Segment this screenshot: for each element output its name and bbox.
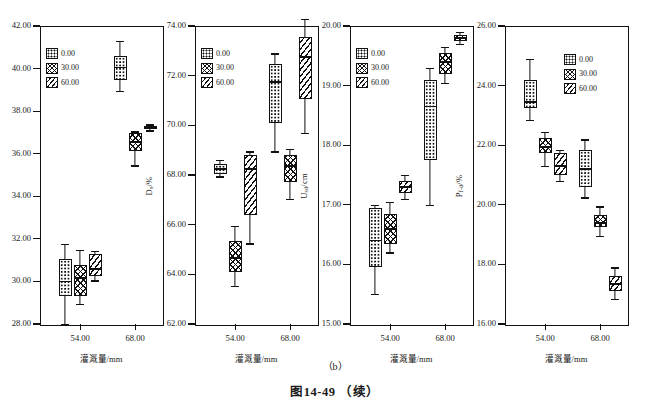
lower-cap xyxy=(116,91,124,92)
y-tick-mark xyxy=(188,323,195,324)
upper-cap xyxy=(231,226,239,227)
x-tick-mark xyxy=(445,324,446,330)
figure-caption: 图14-49 （续） xyxy=(0,381,670,400)
median-line xyxy=(454,37,467,39)
lower-cap xyxy=(541,166,549,167)
y-tick-label: 18.00 xyxy=(459,259,496,268)
y-tick-mark xyxy=(33,68,40,69)
lower-whisker xyxy=(250,215,251,244)
median-line xyxy=(114,67,127,69)
median-line xyxy=(369,240,382,242)
median-line xyxy=(59,281,72,283)
legend-swatch-cross-hatch-icon xyxy=(201,63,213,74)
lower-cap xyxy=(131,165,139,166)
y-tick-label: 68.00 xyxy=(149,170,186,179)
lower-cap xyxy=(301,133,309,134)
y-tick-label: 62.00 xyxy=(149,319,186,328)
y-tick-mark xyxy=(343,323,350,324)
y-tick-mark xyxy=(498,85,505,86)
y-tick-label: 32.00 xyxy=(0,234,31,243)
lower-cap xyxy=(216,176,224,177)
x-tick-mark xyxy=(545,324,546,330)
y-tick-label: 17.00 xyxy=(304,200,341,209)
y-tick-label: 24.00 xyxy=(459,81,496,90)
upper-cap xyxy=(456,32,464,33)
median-line xyxy=(269,81,282,83)
lower-whisker xyxy=(600,227,601,236)
boxplot-4-68.00-30.00 xyxy=(594,8,607,324)
legend-swatch-diagonal-icon xyxy=(201,77,213,88)
y-tick-mark xyxy=(498,25,505,26)
boxplot-2-54.00-60.00 xyxy=(244,8,257,324)
y-tick-label: 15.00 xyxy=(304,319,341,328)
x-tick-mark xyxy=(80,324,81,330)
boxplot-2-54.00-30.00 xyxy=(229,8,242,324)
lower-cap xyxy=(246,243,254,244)
median-line xyxy=(229,257,242,259)
y-tick-mark xyxy=(33,323,40,324)
boxplot-1-68.00-0.00 xyxy=(114,8,127,324)
legend-swatch-diagonal-icon xyxy=(356,77,368,88)
lower-whisker xyxy=(65,296,66,324)
y-tick-label: 40.00 xyxy=(0,64,31,73)
upper-cap xyxy=(386,202,394,203)
lower-cap xyxy=(91,280,99,281)
median-line xyxy=(244,168,257,170)
upper-cap xyxy=(611,267,619,268)
lower-cap xyxy=(286,199,294,200)
legend-swatch-diagonal-icon xyxy=(46,77,58,88)
upper-cap xyxy=(441,47,449,48)
upper-cap xyxy=(76,250,84,251)
y-tick-label: 72.00 xyxy=(149,71,186,80)
lower-whisker xyxy=(585,187,586,197)
lower-whisker xyxy=(445,74,446,83)
median-line xyxy=(524,101,537,103)
lower-whisker xyxy=(275,123,276,152)
y-tick-mark xyxy=(188,25,195,26)
box-iqr xyxy=(524,80,537,108)
y-tick-mark xyxy=(33,25,40,26)
lower-whisker xyxy=(390,244,391,253)
upper-whisker xyxy=(430,68,431,80)
upper-whisker xyxy=(615,267,616,276)
upper-cap xyxy=(426,68,434,69)
y-tick-mark xyxy=(33,111,40,112)
median-line xyxy=(299,56,312,58)
lower-cap xyxy=(386,252,394,253)
x-tick-label: 68.00 xyxy=(265,333,315,343)
upper-cap xyxy=(91,251,99,252)
upper-cap xyxy=(526,59,534,60)
y-tick-label: 38.00 xyxy=(0,106,31,115)
median-line xyxy=(579,168,592,170)
boxplot-4-54.00-30.00 xyxy=(539,8,552,324)
x-tick-label: 54.00 xyxy=(520,333,570,343)
median-line xyxy=(594,222,607,224)
lower-cap xyxy=(611,299,619,300)
boxplot-3-54.00-60.00 xyxy=(399,8,412,324)
y-tick-mark xyxy=(498,323,505,324)
lower-cap xyxy=(596,236,604,237)
lower-whisker xyxy=(235,272,236,286)
y-tick-label: 19.00 xyxy=(304,81,341,90)
boxplot-1-54.00-0.00 xyxy=(59,8,72,324)
legend-swatch-dotted-icon xyxy=(46,48,58,59)
box-iqr xyxy=(299,37,312,99)
y-tick-label: 20.00 xyxy=(304,21,341,30)
lower-cap xyxy=(401,199,409,200)
upper-cap xyxy=(116,41,124,42)
boxplot-4-54.00-60.00 xyxy=(554,8,567,324)
median-line xyxy=(554,165,567,167)
median-line xyxy=(399,186,412,188)
upper-cap xyxy=(131,131,139,132)
y-tick-mark xyxy=(498,264,505,265)
box-iqr xyxy=(369,208,382,268)
boxplot-4-68.00-0.00 xyxy=(579,8,592,324)
x-tick-label: 54.00 xyxy=(210,333,260,343)
y-tick-label: 42.00 xyxy=(0,21,31,30)
upper-cap xyxy=(246,151,254,152)
legend-swatch-cross-hatch-icon xyxy=(356,63,368,74)
y-tick-mark xyxy=(33,238,40,239)
boxplot-3-68.00-0.00 xyxy=(424,8,437,324)
box-iqr xyxy=(554,153,567,175)
boxplot-4-68.00-60.00 xyxy=(609,8,622,324)
